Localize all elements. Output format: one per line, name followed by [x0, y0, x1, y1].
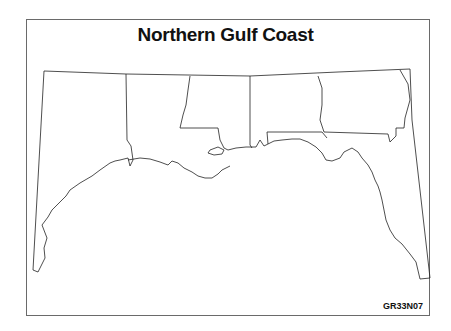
ms-al-coastline [228, 139, 420, 279]
lake-pontchartrain [208, 147, 224, 155]
map-graphic [0, 0, 451, 331]
ga-fl-border [324, 128, 404, 142]
louisiana-coastline [128, 158, 230, 178]
ga-sc-border [400, 70, 410, 128]
tx-la-border [126, 74, 133, 166]
map-code-label: GR33N07 [383, 301, 423, 311]
la-ms-border [180, 76, 228, 150]
ms-al-border [250, 76, 252, 148]
texas-coastline [33, 158, 128, 272]
west-boundary [33, 71, 44, 270]
al-ga-border [318, 76, 324, 132]
map-outer-boundary [44, 69, 430, 279]
al-fl-border [267, 132, 327, 144]
